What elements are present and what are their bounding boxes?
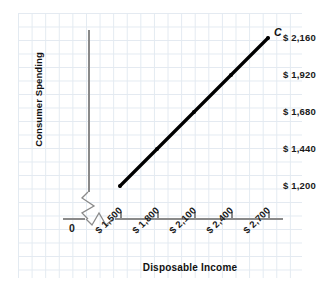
data-point-1800-1440 bbox=[155, 147, 160, 152]
data-point-2100-1680 bbox=[192, 110, 197, 115]
y-axis-break-zigzag bbox=[82, 192, 94, 219]
y-tick-label-1680: $ 1,680 bbox=[248, 106, 316, 117]
y-tick-label-1920: $ 1,920 bbox=[248, 69, 316, 80]
x-tick-label-2700: $ 2,700 bbox=[241, 205, 272, 236]
x-tick-label-2400: $ 2,400 bbox=[204, 205, 235, 236]
y-tick-label-1200: $ 1,200 bbox=[248, 180, 316, 191]
y-tick-label-2160: $ 2,160 bbox=[248, 32, 316, 43]
series-label-c: C bbox=[274, 26, 282, 38]
x-axis-origin-stub bbox=[63, 218, 85, 220]
x-tick-label-1800: $ 1,800 bbox=[130, 205, 161, 236]
plot-area: $ 2,160 $ 1,920 $ 1,680 $ 1,440 $ 1,200 … bbox=[0, 0, 316, 297]
data-point-1500-1200 bbox=[118, 184, 123, 189]
origin-label: 0 bbox=[69, 222, 75, 234]
chart-page: $ 2,160 $ 1,920 $ 1,680 $ 1,440 $ 1,200 … bbox=[0, 0, 316, 297]
x-tick-label-1500: $ 1,500 bbox=[93, 205, 124, 236]
y-axis-title: Consumer Spending bbox=[33, 35, 44, 165]
y-axis-line bbox=[88, 30, 90, 192]
x-axis-title: Disposable Income bbox=[90, 262, 290, 273]
y-tick-label-1440: $ 1,440 bbox=[248, 143, 316, 154]
data-point-2400-1920 bbox=[229, 73, 234, 78]
x-tick-label-2100: $ 2,100 bbox=[167, 205, 198, 236]
